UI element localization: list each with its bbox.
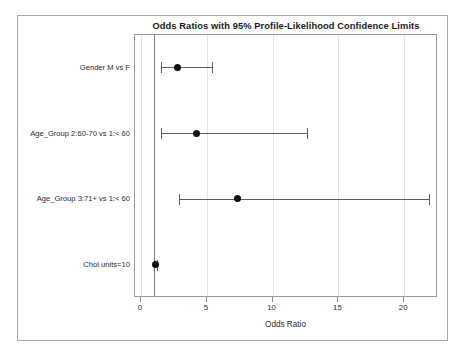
x-tick-5 xyxy=(206,297,207,302)
y-axis-category-label: Gender M vs F xyxy=(80,62,130,71)
x-tick-label-20: 20 xyxy=(388,303,418,312)
x-tick-label-0: 0 xyxy=(125,303,155,312)
odds-ratio-marker xyxy=(193,130,200,137)
confidence-interval-line xyxy=(161,67,212,68)
x-tick-label-10: 10 xyxy=(257,303,287,312)
confidence-limit-cap-lower xyxy=(179,194,180,205)
odds-ratio-marker xyxy=(174,64,181,71)
ci-row xyxy=(135,61,436,74)
x-tick-15 xyxy=(337,297,338,302)
plot-area xyxy=(134,34,437,297)
confidence-interval-line xyxy=(161,133,307,134)
confidence-limit-cap-upper xyxy=(307,128,308,139)
ci-row xyxy=(135,193,436,206)
y-axis-category-label: Age_Group 2:60-70 vs 1:< 60 xyxy=(30,128,130,137)
plot-inner xyxy=(135,35,436,296)
x-tick-10 xyxy=(272,297,273,302)
x-tick-20 xyxy=(403,297,404,302)
confidence-limit-cap-upper xyxy=(212,62,213,73)
y-axis-category-label: Age_Group 3:71+ vs 1:< 60 xyxy=(37,194,130,203)
odds-ratio-marker xyxy=(234,195,241,202)
odds-ratio-marker xyxy=(152,261,159,268)
y-axis-category-label: Chol units=10 xyxy=(83,260,130,269)
confidence-limit-cap-lower xyxy=(161,62,162,73)
ci-row xyxy=(135,127,436,140)
chart-title: Odds Ratios with 95% Profile-Likelihood … xyxy=(134,21,438,31)
x-tick-label-5: 5 xyxy=(191,303,221,312)
confidence-interval-line xyxy=(179,199,429,200)
x-axis-title: Odds Ratio xyxy=(134,320,437,329)
x-tick-0 xyxy=(140,297,141,302)
confidence-limit-cap-lower xyxy=(161,128,162,139)
x-tick-label-15: 15 xyxy=(322,303,352,312)
confidence-limit-cap-upper xyxy=(429,194,430,205)
forest-plot-figure: Odds Ratios with 95% Profile-Likelihood … xyxy=(0,0,462,354)
ci-row xyxy=(135,259,436,272)
